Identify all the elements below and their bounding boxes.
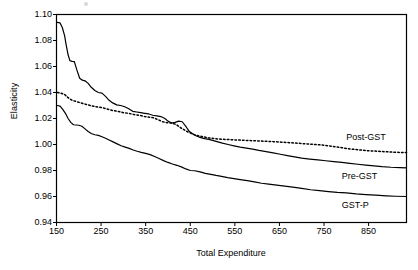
plot-frame — [57, 15, 407, 223]
series-label-post-gst: Post-GST — [346, 132, 386, 142]
series-label-gst-p: GST-P — [342, 200, 369, 210]
series-line-pre-gst — [57, 22, 406, 168]
scan-artifact-speck — [84, 2, 88, 6]
elasticity-line-chart: Elasticity Total Expenditure 0.940.960.9… — [0, 0, 418, 270]
series-label-pre-gst: Pre-GST — [342, 171, 378, 181]
series-line-gst-p — [57, 106, 406, 197]
